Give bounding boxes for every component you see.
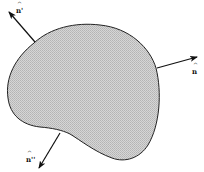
normal-vector-n: ^ n [157,57,198,76]
normal-vector-n-double-prime: ^ n'' [26,133,60,168]
label-n-prime: n' [16,6,23,15]
surface-normals-diagram: ^ n' ^ n ^ n'' [0,0,204,172]
label-n: n [192,67,197,76]
closed-region [7,24,159,160]
arrow-n-icon [157,57,197,68]
normal-vector-n-prime: ^ n' [9,0,35,42]
arrow-n-prime-icon [9,12,35,42]
label-n-double-prime: n'' [26,155,35,164]
arrow-n-double-prime-icon [39,133,60,168]
